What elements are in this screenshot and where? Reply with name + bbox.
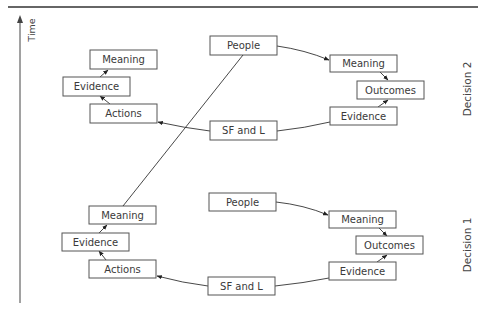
node-evidence-left: Evidence xyxy=(62,233,129,251)
svg-text:Meaning: Meaning xyxy=(342,58,385,69)
edge-evidence-to-meaning xyxy=(99,225,107,233)
svg-text:Outcomes: Outcomes xyxy=(365,85,416,96)
node-meaning-left: Meaning xyxy=(89,206,156,224)
node-people: People xyxy=(209,193,276,211)
node-actions: Actions xyxy=(90,104,157,123)
node-people: People xyxy=(210,36,277,55)
node-evidence-left: Evidence xyxy=(63,77,130,96)
svg-text:Actions: Actions xyxy=(105,108,142,119)
svg-text:People: People xyxy=(227,40,260,51)
edge-evidence-to-meaning xyxy=(100,70,108,77)
edge-evidence-to-outcomes xyxy=(377,255,387,262)
svg-text:Outcomes: Outcomes xyxy=(364,240,415,251)
time-axis-label: Time xyxy=(26,18,37,42)
edge-meaning-to-outcomes xyxy=(379,228,387,236)
edge-people-to-meaning xyxy=(276,202,328,215)
node-meaning-right: Meaning xyxy=(330,55,397,72)
edge-people-to-meaning xyxy=(277,46,329,60)
svg-text:Meaning: Meaning xyxy=(102,54,145,65)
edge-actions-to-evidence xyxy=(99,251,106,260)
section-decision-1: Meaning Evidence Actions People SF and L… xyxy=(62,193,473,295)
decision-cycle-diagram: Time Meaning Evidence Actions People xyxy=(0,0,484,310)
axis-arrow-icon xyxy=(17,15,23,23)
edge-actions-to-evidence xyxy=(100,96,110,104)
node-actions: Actions xyxy=(89,260,156,278)
svg-text:Actions: Actions xyxy=(104,264,141,275)
svg-text:SF and L: SF and L xyxy=(220,281,263,292)
node-outcomes: Outcomes xyxy=(357,81,424,99)
svg-text:People: People xyxy=(226,197,259,208)
time-axis: Time xyxy=(17,15,37,303)
edge-evidence-to-outcomes xyxy=(378,100,388,107)
node-evidence-right: Evidence xyxy=(329,262,396,280)
svg-text:Evidence: Evidence xyxy=(73,237,119,248)
svg-text:Meaning: Meaning xyxy=(341,214,384,225)
svg-text:Evidence: Evidence xyxy=(341,111,387,122)
node-meaning-right: Meaning xyxy=(329,211,396,228)
svg-text:SF and L: SF and L xyxy=(222,125,265,136)
svg-text:Evidence: Evidence xyxy=(340,266,386,277)
svg-text:Meaning: Meaning xyxy=(101,210,144,221)
edge-meaning-to-outcomes xyxy=(380,72,388,80)
edge-evidence-to-sfl xyxy=(275,278,329,286)
node-outcomes: Outcomes xyxy=(356,236,423,254)
node-sf-and-l: SF and L xyxy=(208,277,275,295)
section-label-decision-2: Decision 2 xyxy=(461,62,473,117)
node-evidence-right: Evidence xyxy=(330,107,397,125)
node-meaning-left: Meaning xyxy=(90,50,157,69)
section-label-decision-1: Decision 1 xyxy=(461,218,473,273)
edge-sfl-to-actions xyxy=(157,276,208,286)
node-sf-and-l: SF and L xyxy=(210,121,277,140)
section-decision-2: Meaning Evidence Actions People SF and L… xyxy=(63,36,473,140)
edge-evidence-to-sfl xyxy=(277,122,330,131)
svg-text:Evidence: Evidence xyxy=(74,81,120,92)
